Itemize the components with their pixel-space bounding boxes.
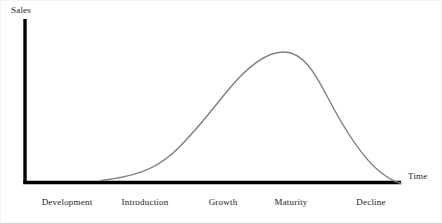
stage-label-decline: Decline <box>325 197 417 207</box>
y-axis-title: Sales <box>11 5 31 15</box>
sales-curve-path <box>101 52 401 184</box>
chart-canvas <box>1 1 442 223</box>
stage-label-maturity: Maturity <box>245 197 337 207</box>
product-life-cycle-figure: Sales Time Development Introduction Grow… <box>0 0 442 223</box>
stage-label-row: Development Introduction Growth Maturity… <box>1 197 442 215</box>
x-axis-title: Time <box>408 171 427 181</box>
